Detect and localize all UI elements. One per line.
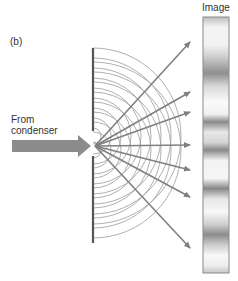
diffraction-diagram: [0, 0, 238, 281]
image-strip: [203, 17, 229, 273]
diffracted-rays: [95, 42, 190, 248]
source-arrow: [12, 135, 91, 157]
